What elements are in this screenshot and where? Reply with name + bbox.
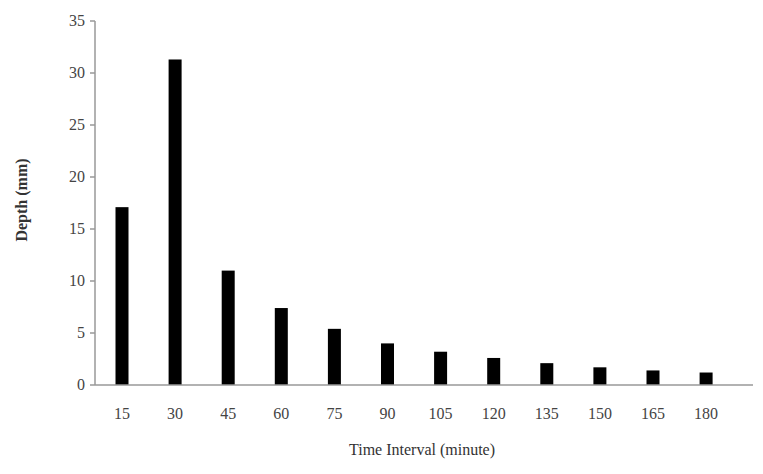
- bar-120: [487, 358, 500, 385]
- x-tick-label: 75: [326, 405, 342, 422]
- y-axis-title: Depth (mm): [13, 158, 31, 241]
- x-axis: 153045607590105120135150165180: [95, 385, 753, 422]
- bar-90: [381, 343, 394, 385]
- x-tick-label: 180: [694, 405, 718, 422]
- x-tick-label: 165: [641, 405, 665, 422]
- bar-180: [700, 373, 713, 385]
- bar-30: [169, 59, 182, 385]
- y-tick-label: 20: [69, 168, 85, 185]
- y-tick-label: 15: [69, 220, 85, 237]
- x-tick-label: 135: [535, 405, 559, 422]
- x-tick-label: 15: [114, 405, 130, 422]
- y-tick-label: 5: [77, 324, 85, 341]
- bar-chart: 05101520253035 1530456075901051201351501…: [0, 0, 763, 474]
- x-tick-label: 150: [588, 405, 612, 422]
- x-axis-title: Time Interval (minute): [349, 441, 495, 459]
- y-tick-label: 10: [69, 272, 85, 289]
- bar-135: [540, 363, 553, 385]
- y-tick-label: 0: [77, 376, 85, 393]
- x-tick-label: 105: [429, 405, 453, 422]
- bar-60: [275, 308, 288, 385]
- y-tick-label: 30: [69, 64, 85, 81]
- y-tick-label: 25: [69, 116, 85, 133]
- bar-45: [222, 271, 235, 385]
- bar-150: [593, 367, 606, 385]
- x-tick-label: 60: [273, 405, 289, 422]
- bar-165: [647, 370, 660, 385]
- bar-105: [434, 352, 447, 385]
- bar-15: [116, 207, 129, 385]
- x-tick-label: 45: [220, 405, 236, 422]
- x-tick-label: 90: [380, 405, 396, 422]
- x-tick-label: 120: [482, 405, 506, 422]
- y-tick-label: 35: [69, 12, 85, 29]
- x-tick-label: 30: [167, 405, 183, 422]
- y-axis: 05101520253035: [69, 12, 95, 393]
- plot-area: [116, 59, 713, 385]
- bar-75: [328, 329, 341, 385]
